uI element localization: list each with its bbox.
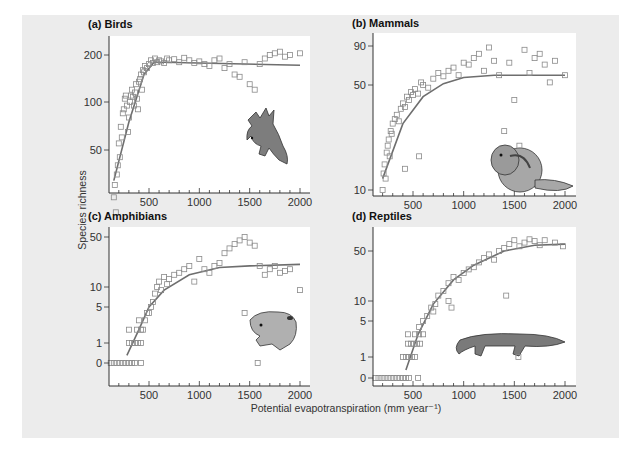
- y-tick-label: 10: [90, 281, 102, 293]
- panel-mammals: (b) Mammals500100015002000105090: [352, 17, 577, 211]
- plot-area: [109, 36, 310, 193]
- x-tick-label: 1000: [187, 389, 211, 401]
- y-tick-label: 50: [354, 79, 366, 91]
- x-tick-label: 500: [140, 389, 158, 401]
- y-tick-label: 1: [96, 337, 102, 349]
- x-tick-label: 1500: [502, 389, 526, 401]
- x-tick-label: 1500: [237, 196, 261, 208]
- y-tick-label: 200: [84, 49, 102, 61]
- x-tick-label: 2000: [553, 199, 577, 211]
- y-tick-label: 0: [360, 372, 366, 384]
- x-tick-label: 1000: [187, 196, 211, 208]
- panel-reptiles: (d) Reptiles5001000150020000151050: [352, 210, 577, 401]
- x-tick-label: 500: [404, 389, 422, 401]
- y-tick-label: 0: [96, 357, 102, 369]
- x-tick-label: 1500: [237, 389, 261, 401]
- y-tick-label: 1: [360, 351, 366, 363]
- x-tick-label: 500: [140, 196, 158, 208]
- y-tick-label: 50: [90, 144, 102, 156]
- y-tick-label: 50: [90, 231, 102, 243]
- y-tick-label: 10: [354, 184, 366, 196]
- panel-birds: (a) Birds50010001500200050100200: [84, 18, 313, 215]
- y-tick-label: 50: [354, 245, 366, 257]
- figure-svg: Species richness Potential evapotranspir…: [0, 0, 639, 454]
- y-tick-label: 90: [354, 40, 366, 52]
- y-tick-label: 10: [354, 295, 366, 307]
- y-tick-label: 5: [96, 301, 102, 313]
- y-axis-title: Species richness: [76, 170, 88, 249]
- x-tick-label: 2000: [553, 389, 577, 401]
- x-axis-title: Potential evapotranspiration (mm year⁻¹): [251, 402, 441, 414]
- x-tick-label: 1000: [451, 199, 475, 211]
- plot-area: [109, 227, 310, 386]
- x-tick-label: 2000: [288, 196, 312, 208]
- panel-title-amphibians: (c) Amphibians: [88, 210, 167, 222]
- panel-title-reptiles: (d) Reptiles: [352, 210, 412, 222]
- plot-area: [373, 227, 576, 386]
- panel-amphibians: (c) Amphibians5001000150020000151050: [88, 210, 312, 401]
- x-tick-label: 2000: [288, 389, 312, 401]
- y-tick-label: 100: [84, 96, 102, 108]
- x-tick-label: 1500: [502, 199, 526, 211]
- panel-title-birds: (a) Birds: [88, 18, 133, 30]
- panel-title-mammals: (b) Mammals: [352, 17, 419, 29]
- y-tick-label: 5: [360, 315, 366, 327]
- x-tick-label: 1000: [451, 389, 475, 401]
